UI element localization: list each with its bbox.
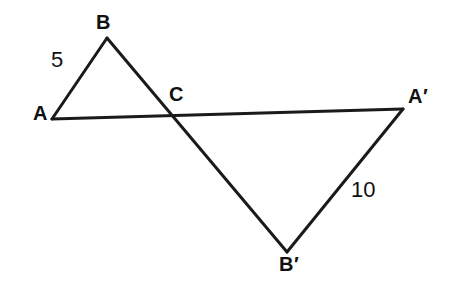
length-label-ab: 5 [51, 49, 63, 71]
segment-b-bprime [107, 38, 287, 252]
vertex-label-c: C [169, 84, 184, 104]
vertex-label-a-prime: A′ [408, 86, 428, 106]
geometry-diagram: A B C A′ B′ 5 10 [0, 0, 461, 296]
segment-a-aprime [52, 109, 403, 119]
length-label-bprime-aprime: 10 [351, 179, 375, 201]
segment-bprime-aprime [287, 109, 403, 252]
vertex-label-a: A [33, 103, 48, 123]
vertex-label-b-prime: B′ [279, 254, 299, 274]
vertex-label-b: B [96, 12, 111, 32]
figure-svg [0, 0, 461, 296]
